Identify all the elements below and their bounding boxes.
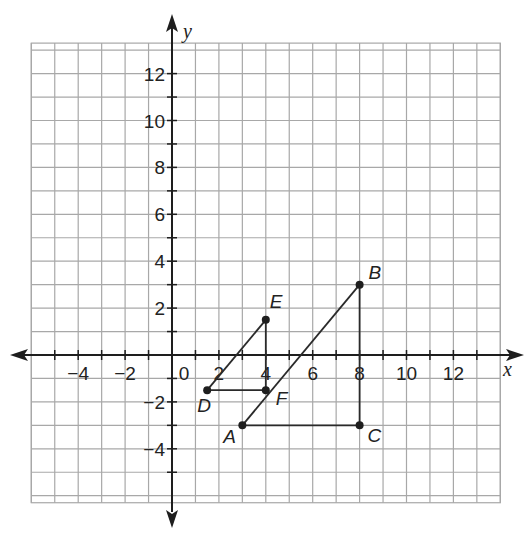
x-tick-label: −4 (67, 363, 89, 384)
point-e-dot-icon (262, 316, 270, 324)
point-d-dot-icon (203, 386, 211, 394)
y-tick-label: 2 (154, 298, 165, 319)
x-tick-label: 10 (396, 363, 417, 384)
coordinate-plane: −4−2024681012−4−224681012 ABCDEF x y (0, 0, 527, 547)
axes (10, 14, 524, 528)
point-label-f: F (276, 388, 289, 409)
y-tick-label: 8 (154, 157, 165, 178)
x-tick-label: −2 (114, 363, 136, 384)
y-tick-label: 4 (154, 251, 165, 272)
x-tick-label: 0 (179, 363, 190, 384)
point-label-b: B (369, 262, 382, 283)
point-a-dot-icon (238, 421, 246, 429)
point-label-c: C (368, 425, 382, 446)
y-tick-label: −4 (143, 439, 165, 460)
point-f-dot-icon (262, 386, 270, 394)
point-label-d: D (197, 395, 211, 416)
x-tick-label: 6 (307, 363, 318, 384)
y-tick-label: 10 (144, 111, 165, 132)
grid-lines (31, 43, 500, 503)
point-b-dot-icon (356, 281, 364, 289)
point-c-dot-icon (356, 421, 364, 429)
y-tick-label: −2 (143, 392, 165, 413)
point-label-e: E (270, 291, 283, 312)
y-tick-label: 6 (154, 204, 165, 225)
point-label-a: A (222, 426, 236, 447)
x-axis-label: x (502, 358, 512, 380)
y-axis-label: y (181, 20, 192, 43)
x-tick-label: 12 (443, 363, 464, 384)
y-tick-label: 12 (144, 64, 165, 85)
y-axis-down-arrow-icon (166, 510, 178, 528)
